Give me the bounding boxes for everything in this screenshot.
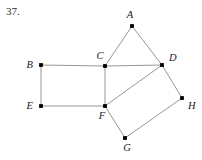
graph-vertex-label-a: A <box>126 9 134 20</box>
graph-edge-a-d <box>132 26 162 65</box>
graph-vertex-label-d: D <box>168 52 177 63</box>
graph-edge-g-h <box>125 98 182 138</box>
graph-vertex-a <box>130 24 134 28</box>
graph-edge-b-c <box>41 65 105 66</box>
graph-vertex-e <box>39 104 43 108</box>
graph-diagram: ABCDEFGH <box>0 0 202 160</box>
graph-edge-layer <box>41 26 182 138</box>
graph-vertex-label-c: C <box>96 50 104 61</box>
graph-edge-d-h <box>162 65 182 98</box>
graph-vertex-label-h: H <box>187 100 197 111</box>
graph-vertex-label-f: F <box>98 110 106 121</box>
graph-edge-d-f <box>105 65 162 106</box>
graph-vertex-label-b: B <box>27 59 34 70</box>
graph-vertex-d <box>160 63 164 67</box>
graph-vertex-label-g: G <box>123 142 131 153</box>
graph-edge-a-c <box>105 26 132 66</box>
graph-vertex-h <box>180 96 184 100</box>
graph-vertex-layer <box>39 24 184 140</box>
graph-vertex-c <box>103 64 107 68</box>
figure-container: 37. ABCDEFGH <box>0 0 202 160</box>
graph-edge-c-d <box>105 65 162 66</box>
graph-vertex-f <box>103 104 107 108</box>
graph-edge-f-g <box>105 106 125 138</box>
graph-vertex-label-e: E <box>26 100 34 111</box>
graph-vertex-b <box>39 63 43 67</box>
graph-vertex-g <box>123 136 127 140</box>
